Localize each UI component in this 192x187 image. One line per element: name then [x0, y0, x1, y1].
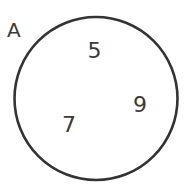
element-5: 5 — [88, 38, 102, 63]
set-a-label: A — [7, 18, 21, 42]
element-7: 7 — [62, 112, 76, 137]
element-9: 9 — [133, 92, 147, 117]
venn-diagram: A 5 9 7 — [0, 0, 192, 187]
